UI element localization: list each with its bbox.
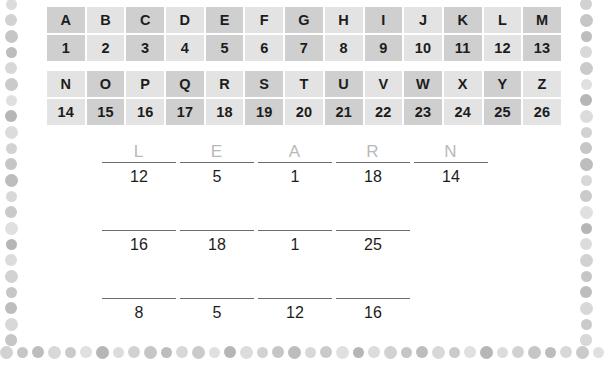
cipher-letter-cell: D <box>166 7 204 33</box>
cipher-number-cell: 8 <box>325 35 363 61</box>
border-dot <box>497 347 508 358</box>
cipher-number-cell: 26 <box>523 99 561 125</box>
answer-slot[interactable]: 1 <box>256 210 334 259</box>
answer-letter[interactable] <box>100 278 178 298</box>
border-dot <box>5 14 17 26</box>
border-dot <box>5 126 18 139</box>
answer-slot[interactable]: 18 <box>178 210 256 259</box>
cipher-letter-cell: X <box>444 71 482 97</box>
answer-slot[interactable]: 25 <box>334 210 412 259</box>
cipher-number-cell: 9 <box>365 35 403 61</box>
answer-letter[interactable]: L <box>100 142 178 162</box>
cipher-letter-cell: U <box>325 71 363 97</box>
answer-slot[interactable]: N14 <box>412 142 490 191</box>
cipher-number-cell: 10 <box>404 35 442 61</box>
cipher-letter-cell: E <box>206 7 244 33</box>
border-dot <box>176 346 188 358</box>
cipher-letter-cell: M <box>523 7 561 33</box>
border-dot <box>209 347 220 358</box>
border-dot <box>581 79 592 90</box>
puzzle-row-1: L12E5A1R18N14 <box>0 142 607 210</box>
cipher-number-cell: 16 <box>126 99 164 125</box>
border-dot <box>113 347 124 358</box>
border-dot <box>336 346 349 359</box>
cipher-clue-number: 1 <box>256 163 334 191</box>
answer-slot[interactable]: 16 <box>100 210 178 259</box>
cipher-letter-cell: V <box>365 71 403 97</box>
cipher-number-cell: 18 <box>206 99 244 125</box>
cipher-letter-cell: R <box>206 71 244 97</box>
border-dot <box>581 31 592 42</box>
cipher-letter-cell: P <box>126 71 164 97</box>
cipher-number-cell: 21 <box>325 99 363 125</box>
answer-slot[interactable]: 12 <box>256 278 334 327</box>
cipher-clue-number: 16 <box>334 299 412 327</box>
cipher-clue-number: 14 <box>412 163 490 191</box>
cipher-clue-number: 5 <box>178 299 256 327</box>
border-dot <box>580 94 592 106</box>
cipher-letter-cell: F <box>245 7 283 33</box>
border-dot <box>593 347 604 358</box>
answer-letter[interactable]: N <box>412 142 490 162</box>
answer-slot[interactable]: E5 <box>178 142 256 191</box>
cipher-number-cell: 14 <box>47 99 85 125</box>
border-dot <box>416 346 428 358</box>
cipher-number-cell: 22 <box>365 99 403 125</box>
border-dot <box>5 78 18 91</box>
cipher-letter-cell: O <box>87 71 125 97</box>
answer-letter[interactable] <box>100 210 178 230</box>
answer-slot[interactable]: A1 <box>256 142 334 191</box>
answer-slot[interactable]: R18 <box>334 142 412 191</box>
border-dot <box>224 346 236 358</box>
cipher-number-cell: 5 <box>206 35 244 61</box>
answer-letter[interactable]: A <box>256 142 334 162</box>
cipher-letter-cell: T <box>285 71 323 97</box>
cipher-clue-number: 12 <box>256 299 334 327</box>
border-dot <box>80 346 92 358</box>
border-dot <box>320 346 332 358</box>
answer-slot[interactable]: 8 <box>100 278 178 327</box>
cipher-letter-cell: A <box>47 7 85 33</box>
puzzle-row-3: 851216 <box>0 278 607 346</box>
border-dot <box>449 347 460 358</box>
cipher-letter-cell: L <box>484 7 522 33</box>
answer-letter[interactable] <box>178 278 256 298</box>
answer-letter[interactable] <box>256 278 334 298</box>
border-dot <box>161 347 172 358</box>
border-dot <box>240 346 253 359</box>
table-gap-row <box>47 63 561 69</box>
border-dot <box>272 346 284 358</box>
border-dot <box>581 127 592 138</box>
cipher-letter-cell: K <box>444 7 482 33</box>
cipher-letter-cell: H <box>325 7 363 33</box>
answer-letter[interactable] <box>334 278 412 298</box>
puzzle-answer-area: L12E5A1R18N141618125851216 <box>0 142 607 346</box>
answer-slot[interactable]: 16 <box>334 278 412 327</box>
border-dot <box>0 346 13 359</box>
cipher-letter-cell: C <box>126 7 164 33</box>
answer-letter[interactable]: E <box>178 142 256 162</box>
cipher-number-cell: 2 <box>87 35 125 61</box>
answer-letter[interactable] <box>334 210 412 230</box>
answer-letter[interactable]: R <box>334 142 412 162</box>
border-dot <box>65 347 76 358</box>
border-dot <box>368 346 380 358</box>
cipher-number-cell: 20 <box>285 99 323 125</box>
cipher-clue-number: 18 <box>178 231 256 259</box>
border-dot <box>480 346 493 359</box>
answer-letter[interactable] <box>178 210 256 230</box>
answer-letter[interactable] <box>256 210 334 230</box>
cipher-letter-cell: J <box>404 7 442 33</box>
answer-slot[interactable]: 5 <box>178 278 256 327</box>
puzzle-row-2: 1618125 <box>0 210 607 278</box>
cipher-letter-cell: S <box>245 71 283 97</box>
answer-slot[interactable]: L12 <box>100 142 178 191</box>
border-dot <box>432 346 445 359</box>
cipher-number-cell: 25 <box>484 99 522 125</box>
border-dot <box>17 347 28 358</box>
cipher-clue-number: 1 <box>256 231 334 259</box>
border-dot <box>464 346 476 358</box>
cipher-letter-cell: I <box>365 7 403 33</box>
table-row: NOPQRSTUVWXYZ <box>47 71 561 97</box>
cipher-number-cell: 19 <box>245 99 283 125</box>
